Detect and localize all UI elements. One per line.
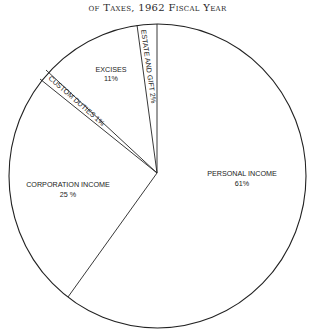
boundary-personal-corporation [68, 173, 157, 297]
label-personal-income: PERSONAL INCOME [207, 169, 277, 178]
label-custom-duties: CUSTOM DUTIES 1% [47, 74, 108, 128]
label-estate-and-gift: ESTATE AND GIFT 2% [139, 29, 158, 104]
value-corporation-income: 25 % [60, 190, 77, 199]
boundary-corporation-custom [40, 79, 157, 173]
label-corporation-income: CORPORATION INCOME [26, 180, 110, 189]
pie-chart: PERSONAL INCOME 61% CORPORATION INCOME 2… [0, 0, 315, 330]
label-excises: EXCISES [95, 65, 126, 74]
value-excises: 11% [104, 74, 118, 83]
value-personal-income: 61% [235, 179, 250, 188]
